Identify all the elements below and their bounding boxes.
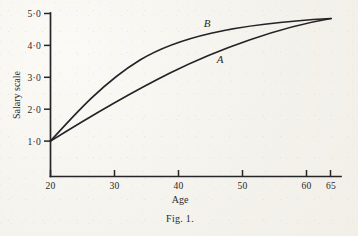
curve-label-b: B bbox=[204, 17, 211, 29]
x-axis-title: Age bbox=[172, 194, 189, 205]
curve-label-a: A bbox=[216, 53, 224, 65]
x-tick-label-20: 20 bbox=[46, 180, 56, 191]
x-tick-label-65: 65 bbox=[326, 180, 336, 191]
y-tick-label-1: 1·0 bbox=[28, 136, 41, 147]
y-tick-label-4: 4·0 bbox=[28, 40, 41, 51]
x-tick-label-40: 40 bbox=[174, 180, 184, 191]
curve-b bbox=[51, 19, 332, 142]
x-tick-label-30: 30 bbox=[110, 180, 120, 191]
figure-caption: Fig. 1. bbox=[166, 213, 194, 224]
x-tick-label-50: 50 bbox=[238, 180, 248, 191]
y-tick-label-2: 2·0 bbox=[28, 104, 41, 115]
x-tick-label-60: 60 bbox=[302, 180, 312, 191]
y-tick-label-5: 5·0 bbox=[28, 8, 41, 19]
y-axis-title: Salary scale bbox=[11, 70, 22, 119]
figure-panel: 5·0 4·0 3·0 2·0 1·0 20 30 40 50 60 65 Ag… bbox=[0, 0, 358, 236]
y-tick-label-3: 3·0 bbox=[28, 72, 41, 83]
chart-svg: 5·0 4·0 3·0 2·0 1·0 20 30 40 50 60 65 Ag… bbox=[0, 0, 358, 236]
curve-a bbox=[51, 19, 332, 142]
